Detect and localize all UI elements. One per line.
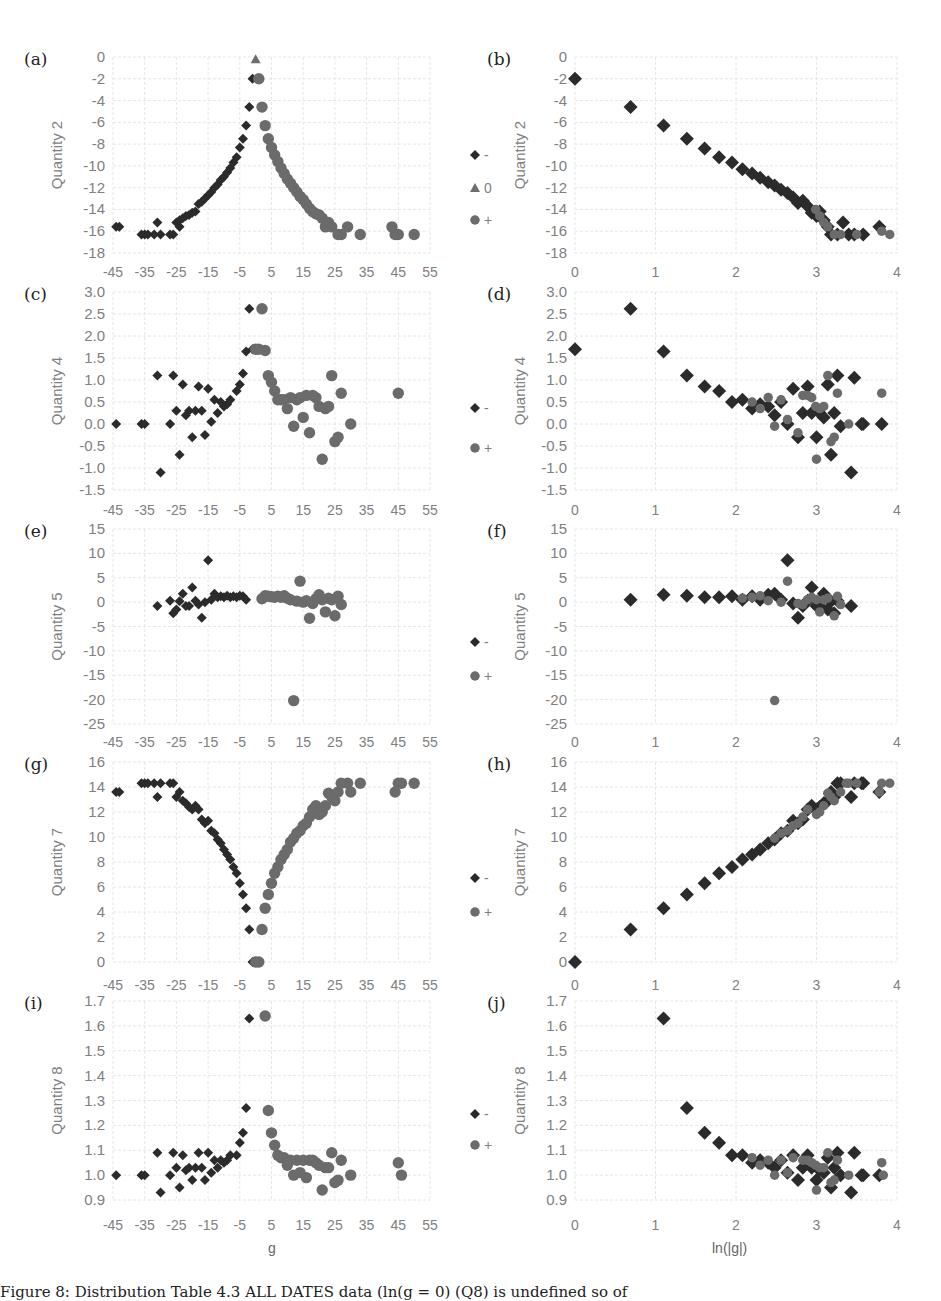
x-tick-label: 4	[893, 734, 901, 750]
legend-label: -	[484, 1106, 489, 1122]
y-tick-label: 1.1	[84, 1141, 105, 1158]
y-tick-label: 0.5	[546, 393, 567, 410]
x-tick-label: 0	[571, 734, 579, 750]
circle-marker-icon	[393, 388, 404, 399]
circle-marker-icon	[747, 1153, 757, 1163]
circle-marker-icon	[259, 120, 270, 131]
x-tick-labels: -45-35-25-15-551525354555	[103, 502, 438, 518]
y-tick-labels: 0-2-4-6-8-10-12-14-16-18	[545, 48, 567, 261]
x-tick-label: 4	[893, 1217, 901, 1233]
y-tick-label: 1.0	[84, 371, 105, 388]
circle-marker-icon	[829, 796, 839, 806]
x-tick-label: 0	[571, 977, 579, 993]
circle-marker-icon	[819, 1163, 829, 1173]
y-tick-label: 1.0	[546, 371, 567, 388]
diamond-marker-icon	[244, 1013, 254, 1023]
y-tick-label: 2	[97, 928, 105, 945]
circle-marker-icon	[304, 427, 315, 438]
y-tick-label: 8	[97, 853, 105, 870]
y-tick-label: 1.6	[546, 1017, 567, 1034]
y-tick-label: -0.5	[79, 437, 105, 454]
y-tick-label: 1.1	[546, 1141, 567, 1158]
diamond-marker-icon	[657, 1011, 671, 1025]
circle-marker-icon	[776, 1155, 786, 1165]
circle-marker-icon	[877, 1158, 887, 1168]
diamond-marker-icon	[657, 588, 671, 602]
panel-d: 3.02.52.01.51.00.50.0-0.5-1.0-1.501234Qu…	[487, 283, 901, 518]
diamond-marker-icon	[856, 417, 870, 431]
circle-marker-icon	[776, 395, 786, 405]
x-tick-labels: 01234	[571, 1217, 901, 1233]
circle-marker-icon	[770, 421, 780, 431]
circle-marker-icon	[396, 1169, 407, 1180]
diamond-legend-icon	[470, 873, 480, 883]
circle-marker-icon	[345, 418, 356, 429]
x-tick-label: -25	[166, 1217, 186, 1233]
x-tick-label: 3	[813, 734, 821, 750]
diamond-legend-icon	[470, 637, 480, 647]
circle-marker-icon	[755, 591, 765, 601]
y-tick-label: 0	[97, 593, 105, 610]
circle-marker-icon	[770, 696, 780, 706]
y-tick-label: -4	[92, 92, 105, 109]
y-tick-label: 3.0	[546, 283, 567, 300]
circle-marker-icon	[844, 1170, 854, 1180]
circle-marker-icon	[336, 599, 347, 610]
circle-marker-icon	[282, 403, 293, 414]
diamond-marker-icon	[680, 1101, 694, 1115]
x-tick-label: -45	[103, 264, 123, 280]
series-zero	[251, 54, 261, 63]
diamond-marker-icon	[712, 1136, 726, 1150]
circle-marker-icon	[326, 1147, 337, 1158]
legend-label: +	[484, 440, 492, 456]
y-tick-label: 2.5	[546, 305, 567, 322]
diamond-marker-icon	[624, 593, 638, 607]
y-tick-label: -8	[554, 135, 567, 152]
x-tick-label: 15	[295, 977, 311, 993]
x-tick-labels: 01234	[571, 977, 901, 993]
x-tick-label: 15	[295, 734, 311, 750]
diamond-marker-icon	[698, 590, 712, 604]
series-negative	[568, 776, 886, 969]
triangle-marker-icon	[251, 54, 261, 63]
x-tick-label: 1	[652, 502, 660, 518]
y-tick-label: 1.3	[546, 1092, 567, 1109]
diamond-marker-icon	[657, 344, 671, 358]
y-tick-label: 4	[97, 903, 105, 920]
circle-marker-icon	[783, 576, 793, 586]
diamond-marker-icon	[624, 923, 638, 937]
y-tick-label: 10	[550, 828, 567, 845]
legend-label: 0	[484, 180, 492, 196]
circle-marker-icon	[755, 404, 765, 414]
x-tick-label: 25	[327, 1217, 343, 1233]
diamond-marker-icon	[810, 430, 824, 444]
y-tick-label: 14	[88, 778, 105, 795]
panel-label: (j)	[487, 993, 506, 1013]
circle-marker-icon	[326, 370, 337, 381]
y-tick-labels: 3.02.52.01.51.00.50.0-0.5-1.0-1.5	[79, 283, 105, 498]
x-tick-label: 3	[813, 1217, 821, 1233]
x-tick-label: -25	[166, 264, 186, 280]
circle-marker-icon	[253, 956, 264, 967]
y-tick-label: -5	[554, 618, 567, 635]
diamond-marker-icon	[244, 925, 254, 935]
y-tick-label: 0	[559, 593, 567, 610]
x-tick-label: -35	[135, 1217, 155, 1233]
y-tick-label: -18	[545, 244, 567, 261]
x-tick-label: 45	[391, 977, 407, 993]
y-tick-label: 1.4	[546, 1067, 567, 1084]
legend-label: -	[484, 634, 489, 650]
diamond-marker-icon	[725, 156, 739, 170]
circle-marker-icon	[332, 432, 343, 443]
circle-legend-icon	[470, 907, 480, 917]
circle-marker-icon	[256, 101, 267, 112]
circle-marker-icon	[783, 1168, 793, 1178]
y-tick-label: -1.5	[79, 481, 105, 498]
x-tick-label: 2	[732, 502, 740, 518]
x-tick-label: -35	[135, 264, 155, 280]
circle-marker-icon	[807, 393, 817, 403]
diamond-marker-icon	[203, 555, 213, 565]
x-tick-label: 25	[327, 977, 343, 993]
legend: -+	[470, 870, 492, 920]
